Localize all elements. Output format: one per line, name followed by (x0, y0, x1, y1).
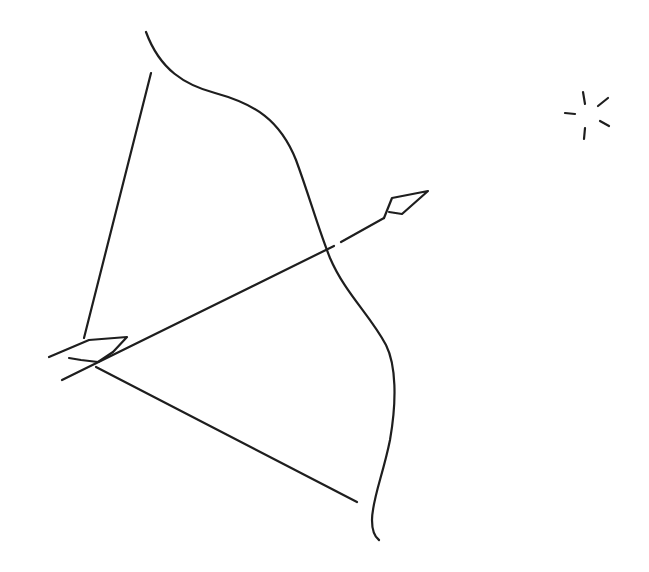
bow-icon (84, 32, 395, 540)
arrow-fletching (49, 337, 127, 362)
sparkle-ray (598, 98, 608, 106)
bow-string-lower (96, 367, 357, 502)
sparkle-ray (565, 113, 575, 114)
arrow-icon (49, 191, 428, 380)
arrow-shaft (62, 218, 384, 380)
sparkle-icon (565, 92, 609, 139)
bow-and-arrow-illustration (0, 0, 649, 572)
sparkle-ray (600, 121, 609, 126)
bow-string-upper (84, 73, 151, 338)
sparkle-ray (583, 92, 585, 104)
drawing-canvas: Bow and arrow line drawing (0, 0, 649, 572)
bow-limb (146, 32, 395, 540)
arrow-head (384, 191, 428, 218)
sparkle-ray (584, 128, 585, 139)
